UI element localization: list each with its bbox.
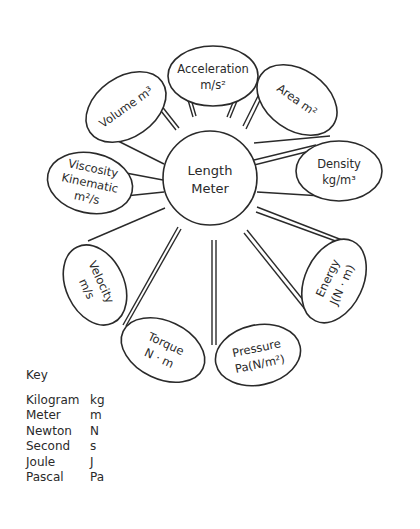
label-density: Density bbox=[317, 157, 361, 171]
key-row: Kilogramkg bbox=[26, 393, 105, 409]
petal-acceleration bbox=[168, 46, 258, 106]
unit-density: kg/m³ bbox=[322, 173, 356, 187]
key-row: PascalPa bbox=[26, 470, 105, 486]
key-row: Meterm bbox=[26, 408, 105, 424]
center-length bbox=[163, 131, 257, 225]
petal-pressure bbox=[210, 317, 307, 394]
label-acceleration: Acceleration bbox=[177, 62, 248, 76]
petal-density bbox=[296, 141, 382, 201]
key-row: Seconds bbox=[26, 439, 105, 455]
key-row: JouleJ bbox=[26, 455, 105, 471]
center-line2: Meter bbox=[191, 181, 229, 196]
key-title: Key bbox=[26, 368, 105, 384]
center-line1: Length bbox=[188, 163, 233, 178]
key-legend: Key Kilogramkg Meterm NewtonN Seconds Jo… bbox=[26, 368, 105, 486]
key-row: NewtonN bbox=[26, 424, 105, 440]
petal-energy bbox=[289, 229, 379, 333]
unit-acceleration: m/s² bbox=[200, 78, 226, 92]
